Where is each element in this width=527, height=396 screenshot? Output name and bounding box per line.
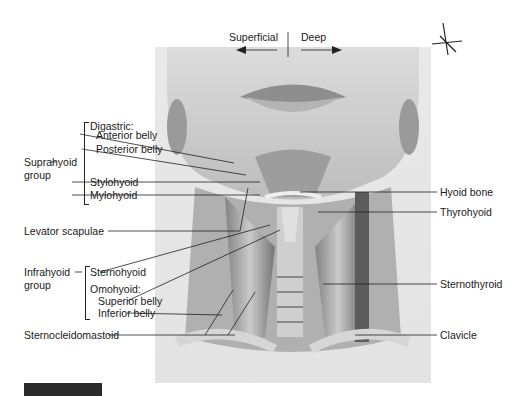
infrahyoid-group-label: Infrahyoid group — [24, 266, 70, 292]
label-superior-belly: Superior belly — [98, 295, 162, 307]
neck-muscles-drawing — [155, 47, 431, 383]
label-anterior-belly: Anterior belly — [96, 129, 157, 141]
suprahyoid-group-label: Suprahyoid group — [24, 156, 77, 182]
label-sternocleidomastoid: Sternocleidomastoid — [24, 329, 119, 341]
infrahyoid-label-line1: Infrahyoid — [24, 266, 70, 279]
deep-label: Deep — [301, 31, 326, 43]
label-inferior-belly: Inferior belly — [98, 307, 155, 319]
label-omohyoid: Omohyoid: — [90, 283, 141, 295]
label-posterior-belly: Posterior belly — [96, 143, 163, 155]
suprahyoid-label-line2: group — [24, 169, 77, 182]
suprahyoid-label-line1: Suprahyoid — [24, 156, 77, 169]
superficial-label: Superficial — [229, 31, 278, 43]
label-sternothyroid: Sternothyroid — [440, 278, 502, 290]
label-hyoid-bone: Hyoid bone — [440, 186, 493, 198]
figure-marker-bar — [24, 383, 102, 396]
infrahyoid-label-line2: group — [24, 279, 70, 292]
label-sternohyoid: Sternohyoid — [90, 266, 146, 278]
label-thyrohyoid: Thyrohyoid — [440, 206, 492, 218]
orientation-star-icon — [432, 23, 462, 55]
suprahyoid-bracket — [84, 122, 89, 205]
label-levator-scapulae: Levator scapulae — [24, 225, 104, 237]
label-clavicle: Clavicle — [440, 329, 477, 341]
label-mylohyoid: Mylohyoid — [90, 189, 137, 201]
label-stylohyoid: Stylohyoid — [90, 176, 138, 188]
anatomy-illustration — [155, 47, 431, 383]
